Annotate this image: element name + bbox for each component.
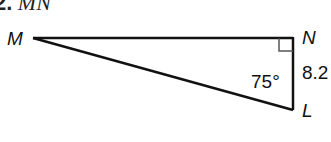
right-angle-icon bbox=[279, 38, 293, 51]
vertex-label-n: N bbox=[302, 27, 316, 48]
side-length-label: 8.2 bbox=[302, 62, 328, 83]
angle-label: 75° bbox=[251, 71, 280, 92]
vertex-label-l: L bbox=[302, 100, 313, 121]
triangle-diagram: M N L 75° 8.2 bbox=[0, 0, 331, 142]
vertex-label-m: M bbox=[7, 28, 23, 49]
